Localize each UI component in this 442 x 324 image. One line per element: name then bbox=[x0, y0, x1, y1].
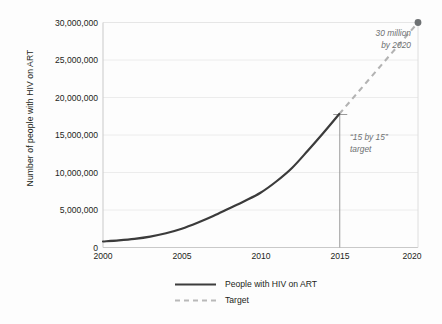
x-tick-label: 2015 bbox=[310, 251, 370, 261]
series-line-people-with-hiv-on-art bbox=[103, 114, 339, 242]
legend-line-samples bbox=[175, 285, 216, 301]
target-endpoint-marker bbox=[415, 19, 422, 26]
chart-figure: Number of people with HIV on ART 30,000,… bbox=[0, 0, 442, 324]
x-tick-label: 2000 bbox=[73, 251, 133, 261]
annotation-thirty-million: 30 million by 2020 bbox=[339, 28, 411, 51]
legend-label-people-with-hiv-on-art: People with HIV on ART bbox=[225, 279, 317, 289]
x-tick-label: 2020 bbox=[382, 251, 442, 261]
target-bracket bbox=[333, 114, 347, 248]
x-tick-label: 2010 bbox=[231, 251, 291, 261]
legend-label-target: Target bbox=[225, 295, 249, 305]
annotation-fifteen-by-fifteen: “15 by 15” target bbox=[350, 132, 430, 155]
x-tick-label: 2005 bbox=[152, 251, 212, 261]
